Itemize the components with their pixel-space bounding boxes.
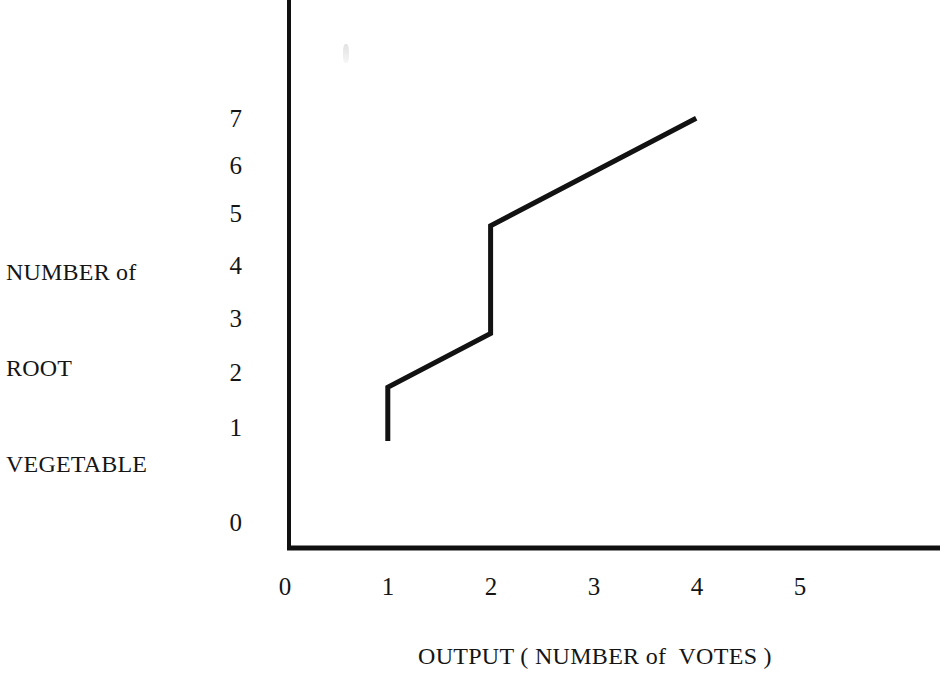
chart-page: NUMBER of ROOT VEGETABLE 7 6 5 4 3 2 1 0…: [0, 0, 940, 683]
plot-area: [0, 0, 940, 683]
data-series-line: [388, 118, 696, 441]
